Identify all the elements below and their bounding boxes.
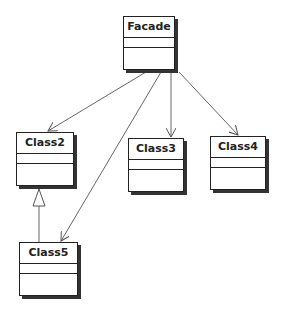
class-name: Class4 [211, 137, 265, 158]
class-box-class3[interactable]: Class3 [128, 138, 184, 192]
class-box-facade[interactable]: Facade [123, 16, 175, 70]
class-box-class4[interactable]: Class4 [210, 136, 266, 190]
class-name: Class2 [17, 133, 73, 154]
association-facade-class4[interactable] [179, 72, 238, 135]
class-box-class2[interactable]: Class2 [16, 132, 74, 186]
class-box-class5[interactable]: Class5 [19, 242, 78, 296]
class-name: Class5 [20, 243, 77, 264]
class-attributes [211, 158, 265, 168]
generalization-triangle-icon [33, 189, 45, 206]
class-attributes [124, 38, 174, 48]
class-attributes [129, 160, 183, 170]
class-diagram-canvas: Facade Class2 Class3 Class4 Class5 [0, 0, 285, 313]
class-name: Facade [124, 17, 174, 38]
class-name: Class3 [129, 139, 183, 160]
class-attributes [20, 264, 77, 274]
class-attributes [17, 154, 73, 164]
